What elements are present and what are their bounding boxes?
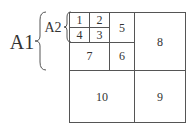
- split-h2: [69, 42, 135, 43]
- a2-label: A2: [42, 21, 64, 35]
- split-h1: [69, 70, 186, 71]
- cell-2: 2: [90, 14, 109, 26]
- cell-6: 6: [110, 50, 134, 62]
- cell-4: 4: [70, 29, 89, 41]
- outer-border-right: [185, 12, 186, 123]
- a1-label: A1: [6, 32, 38, 52]
- split-v1: [134, 12, 135, 123]
- cell-7: 7: [70, 50, 109, 62]
- cell-10: 10: [70, 91, 134, 103]
- cell-9: 9: [135, 91, 185, 103]
- cell-1: 1: [70, 14, 89, 26]
- outer-border-top: [69, 12, 186, 13]
- split-h3: [69, 27, 110, 28]
- cell-3: 3: [90, 29, 109, 41]
- cell-8: 8: [135, 36, 185, 48]
- outer-border-bottom: [69, 122, 186, 123]
- cell-5: 5: [110, 22, 134, 34]
